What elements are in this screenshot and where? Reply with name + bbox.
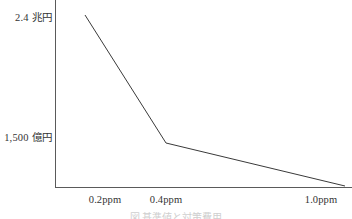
data-series-line xyxy=(0,0,352,219)
line-chart-figure: 2.4 兆円 1,500 億円 0.2ppm 0.4ppm 1.0ppm 図 基… xyxy=(0,0,352,219)
x-axis-label-0-4ppm: 0.4ppm xyxy=(150,194,182,206)
figure-caption-text: 図 基準値と対策費用 xyxy=(130,212,223,219)
y-axis-label-lower: 1,500 億円 xyxy=(4,132,52,144)
figure-caption-clipped: 図 基準値と対策費用 xyxy=(0,212,352,219)
x-axis-label-1-0ppm: 1.0ppm xyxy=(305,194,337,206)
y-axis-label-upper: 2.4 兆円 xyxy=(15,12,52,24)
x-axis-label-0-2ppm: 0.2ppm xyxy=(89,194,121,206)
